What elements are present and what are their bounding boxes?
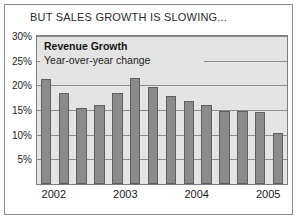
x-axis-tick-label: 2003 — [113, 188, 137, 200]
legend-title: Revenue Growth — [44, 40, 204, 53]
x-axis-tick-label: 2002 — [42, 188, 66, 200]
y-axis-tick-label: 10% — [12, 129, 32, 140]
y-axis-tick-label: 5% — [18, 154, 32, 165]
legend-subtitle: Year-over-year change — [44, 53, 204, 67]
x-axis-labels: 2002200320042005 — [36, 188, 288, 206]
bar — [184, 101, 194, 184]
bar — [76, 108, 86, 184]
y-axis-tick-label: 25% — [12, 55, 32, 66]
bar — [59, 93, 69, 184]
bar — [219, 111, 229, 184]
bar — [41, 79, 51, 184]
y-axis-tick-label: 15% — [12, 105, 32, 116]
bar — [166, 96, 176, 184]
y-axis-tick-label: 30% — [12, 31, 32, 42]
y-axis-labels: 5%10%15%20%25%30% — [0, 0, 36, 219]
x-axis-tick-label: 2004 — [184, 188, 208, 200]
y-axis-tick-label: 20% — [12, 80, 32, 91]
bar — [112, 93, 122, 184]
x-axis-tick-label: 2005 — [256, 188, 280, 200]
bar — [273, 133, 283, 184]
bar — [255, 112, 265, 184]
bar — [94, 105, 104, 184]
chart-figure: BUT SALES GROWTH IS SLOWING... 5%10%15%2… — [0, 0, 297, 219]
chart-headline: BUT SALES GROWTH IS SLOWING... — [30, 11, 227, 23]
bar — [148, 87, 158, 184]
bar — [237, 111, 247, 184]
bar — [130, 78, 140, 184]
bar — [201, 105, 211, 184]
chart-legend: Revenue Growth Year-over-year change — [40, 38, 204, 67]
